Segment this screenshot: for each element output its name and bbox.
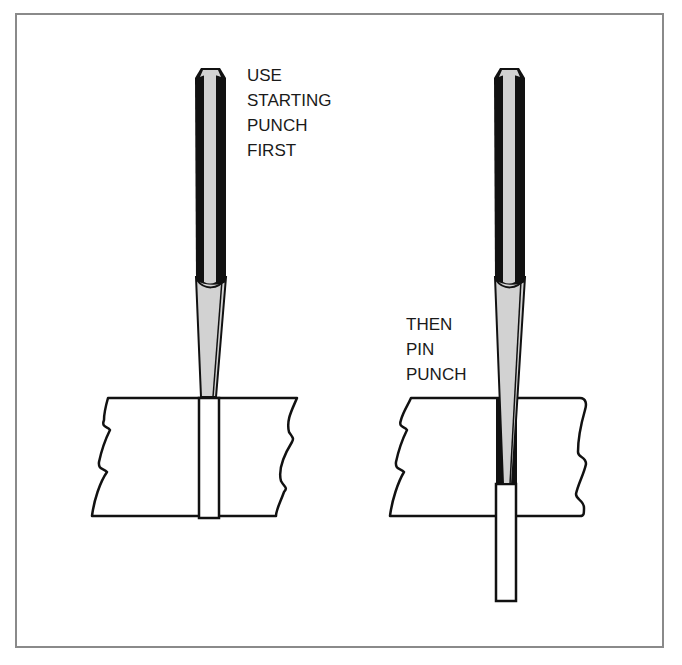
- label-line: PIN: [406, 340, 434, 359]
- label-line: USE: [247, 66, 282, 85]
- right-pin-driven-out: [496, 484, 516, 601]
- label-line: PUNCH: [406, 365, 466, 384]
- label-line: PUNCH: [247, 116, 307, 135]
- right-step-label: THEN PIN PUNCH: [406, 315, 466, 384]
- left-pin: [199, 398, 219, 518]
- left-workpiece: [92, 398, 297, 516]
- right-workpiece: [390, 398, 586, 516]
- starting-punch-icon: [195, 68, 226, 397]
- label-line: FIRST: [247, 141, 296, 160]
- label-line: THEN: [406, 315, 452, 334]
- label-line: STARTING: [247, 91, 331, 110]
- left-step-label: USE STARTING PUNCH FIRST: [247, 66, 331, 160]
- punch-diagram: USE STARTING PUNCH FIRST THEN PIN PUNCH: [0, 0, 682, 665]
